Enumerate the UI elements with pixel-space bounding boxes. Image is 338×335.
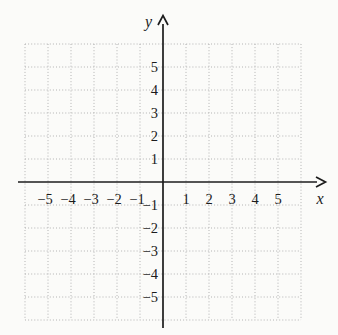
x-tick-label: 1 [182, 191, 189, 207]
x-tick-label: −5 [37, 191, 52, 207]
axes [18, 16, 326, 329]
x-tick-label: 4 [251, 191, 259, 207]
y-axis-label: y [143, 13, 153, 31]
x-tick-label: 2 [205, 191, 212, 207]
x-tick-label: −3 [83, 191, 98, 207]
x-axis-arrow-icon [316, 177, 326, 187]
x-tick-label: 3 [228, 191, 235, 207]
y-tick-label: 2 [151, 128, 158, 144]
y-tick-label: −4 [143, 266, 159, 282]
y-tick-label: −2 [143, 220, 158, 236]
y-tick-label: 5 [151, 59, 158, 75]
y-axis-arrow-icon [158, 16, 168, 26]
x-tick-label: −4 [60, 191, 76, 207]
y-tick-label: −1 [143, 197, 158, 213]
y-tick-label: −5 [143, 289, 158, 305]
plot-svg: −5−4−3−2−112345 −5−4−3−2−112345 x y [0, 0, 338, 335]
x-tick-labels: −5−4−3−2−112345 [37, 191, 281, 207]
x-tick-label: 5 [274, 191, 281, 207]
y-tick-label: −3 [143, 243, 158, 259]
y-tick-label: 3 [151, 105, 158, 121]
x-axis-label: x [315, 190, 323, 207]
x-tick-label: −2 [106, 191, 121, 207]
y-tick-label: 1 [151, 151, 158, 167]
y-tick-label: 4 [151, 82, 159, 98]
coordinate-plane-figure: −5−4−3−2−112345 −5−4−3−2−112345 x y [0, 0, 338, 335]
